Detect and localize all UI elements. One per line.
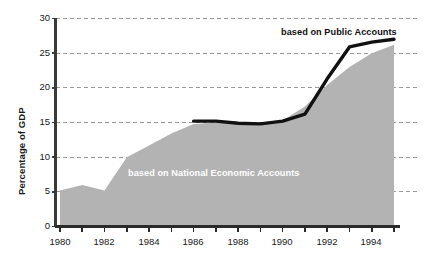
chart-container: Percentage of GDP 30 25 20 15 10 5 0 198… [0, 0, 426, 268]
area-series-national-economic-accounts [60, 45, 394, 227]
plot-area [0, 0, 426, 268]
annotation-public-accounts: based on Public Accounts [281, 27, 397, 37]
annotation-national-economic-accounts: based on National Economic Accounts [128, 168, 299, 178]
